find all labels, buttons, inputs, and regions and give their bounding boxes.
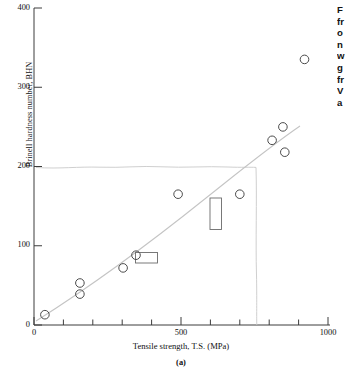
data-point bbox=[300, 55, 309, 64]
caption-column: F fr o n w g fr V a bbox=[337, 4, 358, 108]
data-point bbox=[281, 148, 290, 157]
x-tick-label-1000: 1000 bbox=[308, 328, 348, 337]
data-point bbox=[279, 123, 288, 132]
y-tick-marks bbox=[34, 8, 42, 325]
data-point bbox=[41, 310, 50, 319]
y-axis-title: Brinell hardness number, BHN bbox=[25, 30, 34, 200]
data-point bbox=[268, 136, 277, 145]
caption-line: a bbox=[337, 97, 358, 109]
caption-line: w bbox=[337, 50, 358, 62]
x-tick-marks bbox=[34, 317, 328, 325]
scatter-plot-svg bbox=[0, 0, 358, 371]
axis-lines bbox=[34, 8, 330, 325]
caption-line: g bbox=[337, 62, 358, 74]
data-point bbox=[119, 264, 128, 273]
annotation-rect-brass bbox=[136, 253, 158, 264]
x-tick-label-500: 500 bbox=[161, 328, 201, 337]
caption-line: fr bbox=[337, 74, 358, 86]
caption-line: F bbox=[337, 4, 358, 16]
caption-line: o bbox=[337, 27, 358, 39]
caption-line: fr bbox=[337, 16, 358, 28]
trend-line bbox=[36, 126, 300, 321]
caption-line: n bbox=[337, 39, 358, 51]
data-point bbox=[76, 279, 85, 288]
x-tick-label-0: 0 bbox=[14, 328, 54, 337]
upper-envelope-curve bbox=[36, 166, 256, 168]
caption-line: V bbox=[337, 85, 358, 97]
figure-panel-a: 400 300 200 100 0 0 500 1000 Brinell har… bbox=[0, 0, 358, 371]
data-points bbox=[41, 55, 309, 319]
data-point bbox=[174, 190, 183, 199]
x-axis-title: Tensile strength, T.S. (MPa) bbox=[34, 341, 328, 351]
y-tick-label-100: 100 bbox=[4, 240, 30, 249]
y-tick-label-400: 400 bbox=[4, 3, 30, 12]
right-boundary-curve bbox=[256, 167, 257, 325]
panel-letter: (a) bbox=[34, 358, 328, 367]
data-point bbox=[236, 190, 245, 199]
annotation-rect-cast-iron bbox=[210, 198, 222, 230]
plot-area: 400 300 200 100 0 0 500 1000 Brinell har… bbox=[0, 0, 358, 371]
